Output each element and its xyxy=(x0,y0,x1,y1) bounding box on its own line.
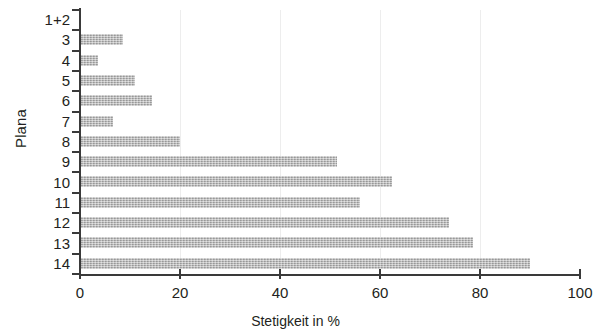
y-tick xyxy=(72,212,80,214)
y-tick-label-7: 7 xyxy=(0,114,70,129)
y-tick xyxy=(72,151,80,153)
bar-row xyxy=(80,112,580,131)
x-axis-line xyxy=(79,274,581,276)
y-tick xyxy=(72,70,80,72)
bar-3 xyxy=(80,34,123,45)
bar-row xyxy=(80,172,580,191)
x-tick-40 xyxy=(279,269,281,279)
x-tick-label-40: 40 xyxy=(272,285,289,300)
y-tick-label-4: 4 xyxy=(0,53,70,68)
bar-row xyxy=(80,91,580,110)
bar-10 xyxy=(80,176,392,187)
bar-5 xyxy=(80,75,135,86)
y-tick-label-8: 8 xyxy=(0,134,70,149)
bar-row xyxy=(80,233,580,252)
bar-row xyxy=(80,71,580,90)
y-tick-label-9: 9 xyxy=(0,154,70,169)
y-tick-label-6: 6 xyxy=(0,93,70,108)
y-tick xyxy=(72,192,80,194)
y-axis-tick-labels: 1+234567891011121314 xyxy=(0,0,70,334)
y-tick-label-11: 11 xyxy=(0,195,70,210)
bar-row xyxy=(80,132,580,151)
y-tick xyxy=(72,171,80,173)
bar-4 xyxy=(80,55,98,66)
bar-row xyxy=(80,30,580,49)
y-tick-label-5: 5 xyxy=(0,73,70,88)
bar-7 xyxy=(80,116,113,127)
y-tick xyxy=(72,9,80,11)
bar-9 xyxy=(80,156,337,167)
plot-area xyxy=(80,10,580,274)
y-tick-label-10: 10 xyxy=(0,175,70,190)
bar-13 xyxy=(80,237,473,248)
y-tick xyxy=(72,253,80,255)
x-tick-label-60: 60 xyxy=(372,285,389,300)
x-tick-0 xyxy=(79,269,81,279)
y-tick xyxy=(72,111,80,113)
x-axis-title: Stetigkeit in % xyxy=(0,313,591,329)
bar-row xyxy=(80,193,580,212)
y-tick-label-3: 3 xyxy=(0,32,70,47)
bar-row xyxy=(80,213,580,232)
y-tick xyxy=(72,131,80,133)
x-tick-80 xyxy=(479,269,481,279)
bar-row xyxy=(80,51,580,70)
x-tick-100 xyxy=(579,269,581,279)
y-tick-label-1+2: 1+2 xyxy=(0,12,70,27)
bar-row xyxy=(80,152,580,171)
y-tick xyxy=(72,50,80,52)
y-tick xyxy=(72,90,80,92)
bar-row xyxy=(80,254,580,273)
bar-12 xyxy=(80,217,449,228)
y-tick xyxy=(72,29,80,31)
y-tick xyxy=(72,232,80,234)
y-tick-label-12: 12 xyxy=(0,215,70,230)
bar-row xyxy=(80,10,580,29)
y-axis-line xyxy=(79,8,81,276)
bar-11 xyxy=(80,197,360,208)
bar-8 xyxy=(80,136,180,147)
x-tick-label-20: 20 xyxy=(172,285,189,300)
x-tick-label-100: 100 xyxy=(567,285,592,300)
y-tick-label-14: 14 xyxy=(0,256,70,271)
y-tick-label-13: 13 xyxy=(0,236,70,251)
x-tick-label-0: 0 xyxy=(76,285,84,300)
bar-6 xyxy=(80,95,152,106)
x-tick-label-80: 80 xyxy=(472,285,489,300)
bar-14 xyxy=(80,258,530,269)
x-tick-20 xyxy=(179,269,181,279)
x-tick-60 xyxy=(379,269,381,279)
